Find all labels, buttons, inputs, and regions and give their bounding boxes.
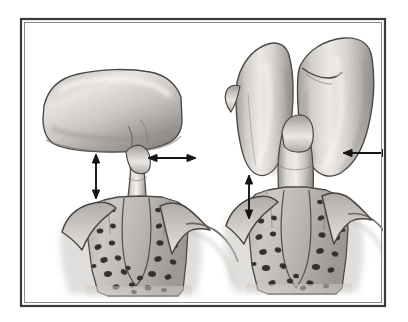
- dental-illustration-figure: Tooth mobility illustration Grayscale an…: [0, 0, 408, 322]
- illustration-canvas: [0, 0, 408, 322]
- opposing-tooth-crown: [43, 70, 182, 152]
